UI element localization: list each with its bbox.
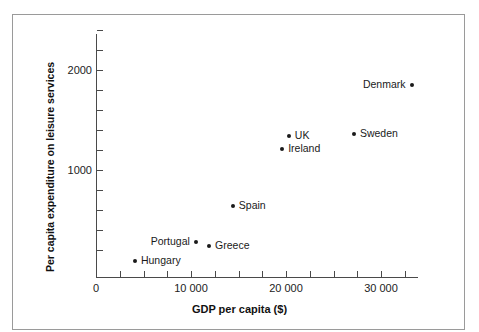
x-tick-minor: [167, 271, 168, 277]
data-point-label-portugal: Portugal: [151, 236, 190, 247]
x-tick-minor: [239, 271, 240, 277]
data-point-label-ireland: Ireland: [288, 143, 320, 154]
x-tick-major: [286, 271, 287, 277]
x-tick-label: 30 000: [341, 283, 421, 294]
x-axis-title: GDP per capita ($): [0, 303, 479, 315]
data-point-greece[interactable]: [207, 244, 211, 248]
data-point-label-spain: Spain: [239, 200, 266, 211]
data-point-label-greece: Greece: [215, 240, 249, 251]
x-tick-minor: [405, 271, 406, 277]
data-point-spain[interactable]: [231, 204, 235, 208]
x-tick-minor: [357, 271, 358, 277]
data-point-portugal[interactable]: [194, 240, 198, 244]
x-tick-label: 20 000: [246, 283, 326, 294]
data-point-label-uk: UK: [295, 130, 310, 141]
x-tick-major: [96, 271, 97, 277]
y-tick-minor: [97, 190, 103, 191]
y-tick-minor: [97, 150, 103, 151]
x-axis-line: [96, 277, 418, 278]
x-tick-minor: [310, 271, 311, 277]
data-point-hungary[interactable]: [133, 259, 137, 263]
data-point-sweden[interactable]: [352, 132, 356, 136]
y-tick-minor: [97, 90, 103, 91]
y-tick-major: [97, 170, 103, 171]
x-tick-major: [381, 271, 382, 277]
y-tick-minor: [97, 30, 103, 31]
y-tick-minor: [97, 110, 103, 111]
x-tick-minor: [262, 271, 263, 277]
y-tick-minor: [97, 50, 103, 51]
x-tick-label: 10 000: [151, 283, 231, 294]
y-tick-minor: [97, 210, 103, 211]
y-tick-major: [97, 70, 103, 71]
y-tick-minor: [97, 230, 103, 231]
chart-figure: 10002000 010 00020 00030 000 HungaryPort…: [0, 0, 479, 332]
y-tick-minor: [97, 130, 103, 131]
data-point-denmark[interactable]: [410, 83, 414, 87]
x-tick-minor: [120, 271, 121, 277]
x-tick-minor: [144, 271, 145, 277]
y-tick-minor: [97, 250, 103, 251]
data-point-label-hungary: Hungary: [141, 255, 181, 266]
x-tick-major: [191, 271, 192, 277]
x-tick-label: 0: [56, 283, 136, 294]
scatter-plot-area: 10002000 010 00020 00030 000 HungaryPort…: [0, 0, 479, 332]
data-point-ireland[interactable]: [280, 147, 284, 151]
x-tick-minor: [215, 271, 216, 277]
data-point-label-denmark: Denmark: [363, 79, 406, 90]
x-tick-minor: [334, 271, 335, 277]
y-axis-title: Per capita expenditure on leisure servic…: [44, 62, 56, 272]
data-point-label-sweden: Sweden: [360, 128, 398, 139]
data-point-uk[interactable]: [287, 134, 291, 138]
